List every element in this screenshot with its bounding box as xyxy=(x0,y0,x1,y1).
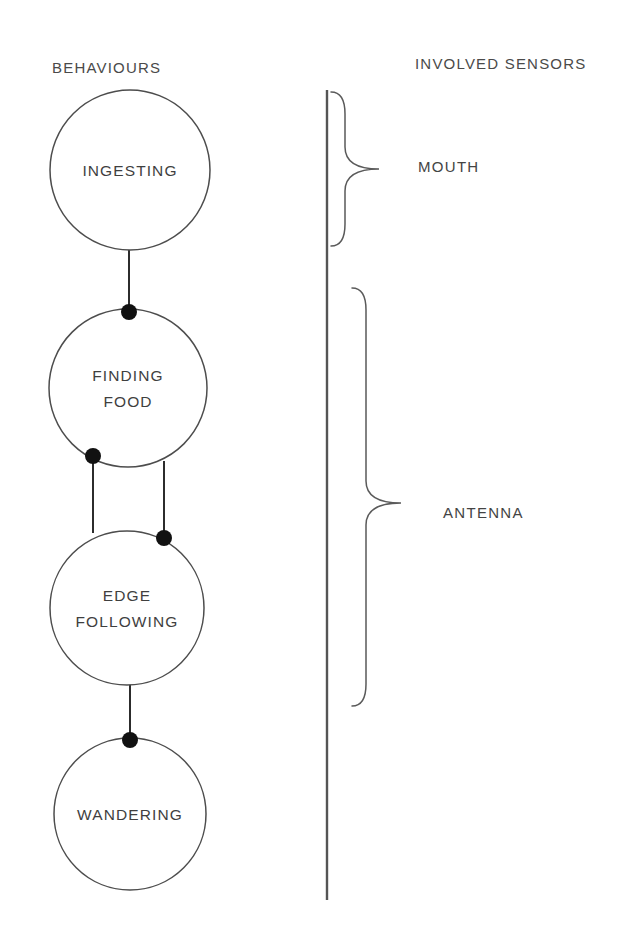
behaviour-nodes: INGESTINGFINDINGFOODEDGEFOLLOWINGWANDERI… xyxy=(49,90,210,890)
dot-edge-following-upper-right xyxy=(156,530,172,546)
dot-wandering-top xyxy=(122,732,138,748)
node-label-wandering: WANDERING xyxy=(77,806,183,823)
dot-finding-food-top xyxy=(121,304,137,320)
sensor-group-antenna: ANTENNA xyxy=(352,288,524,706)
sensor-label-mouth: MOUTH xyxy=(418,158,480,175)
node-label-edge-following: FOLLOWING xyxy=(76,613,179,630)
behaviour-node-edge-following[interactable]: EDGEFOLLOWING xyxy=(50,531,204,685)
sensors-column-header: INVOLVED SENSORS xyxy=(415,55,586,72)
behaviour-node-finding-food[interactable]: FINDINGFOOD xyxy=(49,309,207,467)
node-label-edge-following: EDGE xyxy=(103,587,151,604)
node-label-finding-food: FOOD xyxy=(103,393,152,410)
behaviour-sensor-diagram: BEHAVIOURS INVOLVED SENSORS INGESTINGFIN… xyxy=(0,0,638,936)
brace-antenna xyxy=(352,288,401,706)
sensor-groups: MOUTHANTENNA xyxy=(331,92,524,706)
behaviours-column-header: BEHAVIOURS xyxy=(52,59,161,76)
sensor-group-mouth: MOUTH xyxy=(331,92,480,246)
diagram-canvas: BEHAVIOURS INVOLVED SENSORS INGESTINGFIN… xyxy=(0,0,638,936)
node-label-finding-food: FINDING xyxy=(92,367,163,384)
node-circle-edge-following[interactable] xyxy=(50,531,204,685)
dot-finding-food-lower-left xyxy=(85,448,101,464)
sensor-label-antenna: ANTENNA xyxy=(443,504,524,521)
behaviour-node-wandering[interactable]: WANDERING xyxy=(54,738,206,890)
brace-mouth xyxy=(331,92,379,246)
behaviour-node-ingesting[interactable]: INGESTING xyxy=(50,90,210,250)
node-circle-finding-food[interactable] xyxy=(49,309,207,467)
node-label-ingesting: INGESTING xyxy=(82,162,177,179)
